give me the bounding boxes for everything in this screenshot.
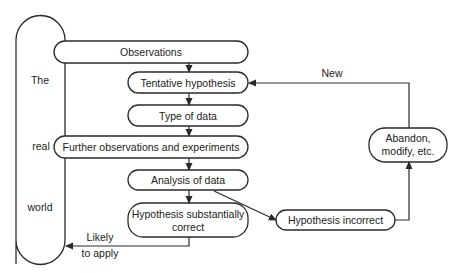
node-tentative-hypothesis: Tentative hypothesis	[128, 72, 248, 93]
arrow-abandon-to-hypothesis	[249, 83, 409, 128]
node-analysis-of-data: Analysis of data	[128, 170, 248, 190]
node-observations: Observations	[54, 41, 248, 63]
edge-label-likely: Likely	[87, 231, 115, 243]
analysis-of-data-label: Analysis of data	[151, 174, 225, 186]
node-further-observations: Further observations and experiments	[54, 136, 248, 158]
side-label-the: The	[31, 74, 49, 86]
abandon-label-1: Abandon,	[386, 132, 431, 144]
hypothesis-incorrect-label: Hypothesis incorrect	[288, 214, 383, 226]
side-label-real: real	[32, 140, 50, 152]
node-abandon-modify: Abandon, modify, etc.	[369, 128, 447, 162]
arrow-incorrect-to-abandon	[395, 162, 409, 220]
hypothesis-correct-label-2: correct	[172, 221, 204, 233]
scientific-method-diagram: Observations Tentative hypothesis Type o…	[0, 0, 459, 273]
abandon-label-2: modify, etc.	[382, 145, 435, 157]
type-of-data-label: Type of data	[159, 110, 217, 122]
node-type-of-data: Type of data	[128, 105, 248, 126]
observations-label: Observations	[120, 46, 182, 58]
edge-label-new: New	[321, 67, 342, 79]
hypothesis-correct-label-1: Hypothesis substantially	[132, 208, 245, 220]
side-label-world: world	[26, 201, 52, 213]
node-hypothesis-correct: Hypothesis substantially correct	[128, 203, 248, 237]
further-observations-label: Further observations and experiments	[63, 141, 240, 153]
edge-label-to-apply: to apply	[82, 247, 120, 259]
arrow-correct-to-real-world	[66, 237, 189, 246]
node-hypothesis-incorrect: Hypothesis incorrect	[276, 210, 395, 230]
tentative-hypothesis-label: Tentative hypothesis	[140, 77, 235, 89]
